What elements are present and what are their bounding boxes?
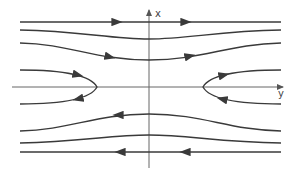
y-axis-label: y	[278, 88, 284, 99]
arrow-icon	[78, 98, 82, 99]
streamline-top-3	[20, 43, 281, 60]
streamline-bottom-2	[20, 135, 281, 143]
phase-portrait-diagram	[0, 0, 294, 179]
arrow-icon	[74, 74, 78, 75]
arrow-icon	[222, 99, 226, 100]
arrow-icon	[186, 56, 190, 57]
arrow-icon	[220, 75, 224, 76]
x-axis-label: x	[155, 8, 161, 19]
streamline-bottom-3	[20, 114, 281, 131]
streamline-top-2	[20, 30, 281, 39]
arrow-icon	[106, 56, 110, 57]
